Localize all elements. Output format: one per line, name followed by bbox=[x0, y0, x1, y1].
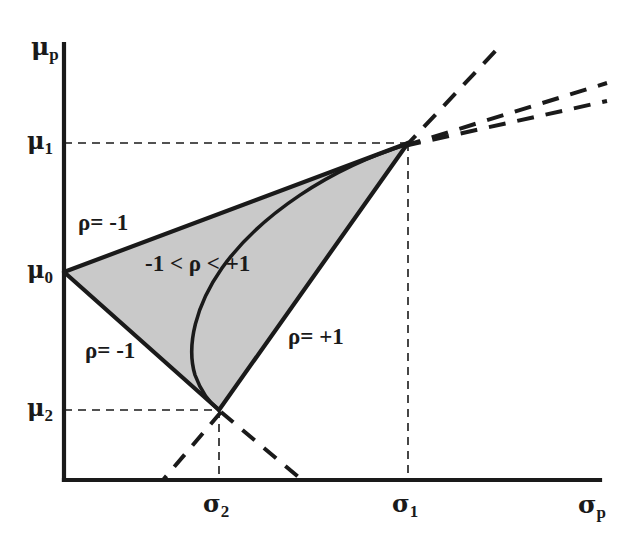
tick-label-mu1: μ1 bbox=[27, 129, 53, 157]
tick-label-sigma1: σ1 bbox=[392, 492, 418, 520]
dashed-extensions-lower bbox=[163, 412, 302, 480]
annotation-rho-range: -1 < ρ < +1 bbox=[145, 252, 250, 275]
extension-ray-down-left bbox=[163, 412, 221, 480]
feasible-region-shading bbox=[64, 143, 408, 410]
extension-ray-shallow bbox=[404, 101, 607, 146]
annotation-rho-plus-one: ρ= +1 bbox=[288, 325, 344, 348]
extension-ray-down-right bbox=[221, 412, 302, 480]
annotation-rho-minus-one-upper: ρ= -1 bbox=[78, 211, 128, 234]
x-axis-label: σp bbox=[578, 492, 606, 521]
y-axis-label: μp bbox=[31, 34, 59, 63]
extension-ray-steep bbox=[404, 43, 503, 148]
mean-variance-frontier-diagram bbox=[0, 0, 639, 542]
figure-canvas: μp σp μ1 μ0 μ2 σ2 σ1 ρ= -1 -1 < ρ < +1 ρ… bbox=[0, 0, 639, 542]
annotation-rho-minus-one-lower: ρ= -1 bbox=[85, 339, 135, 362]
tick-label-sigma2: σ2 bbox=[203, 492, 229, 520]
tick-label-mu0: μ0 bbox=[27, 258, 53, 286]
dashed-extensions-upper bbox=[404, 43, 607, 148]
tick-label-mu2: μ2 bbox=[27, 396, 53, 424]
